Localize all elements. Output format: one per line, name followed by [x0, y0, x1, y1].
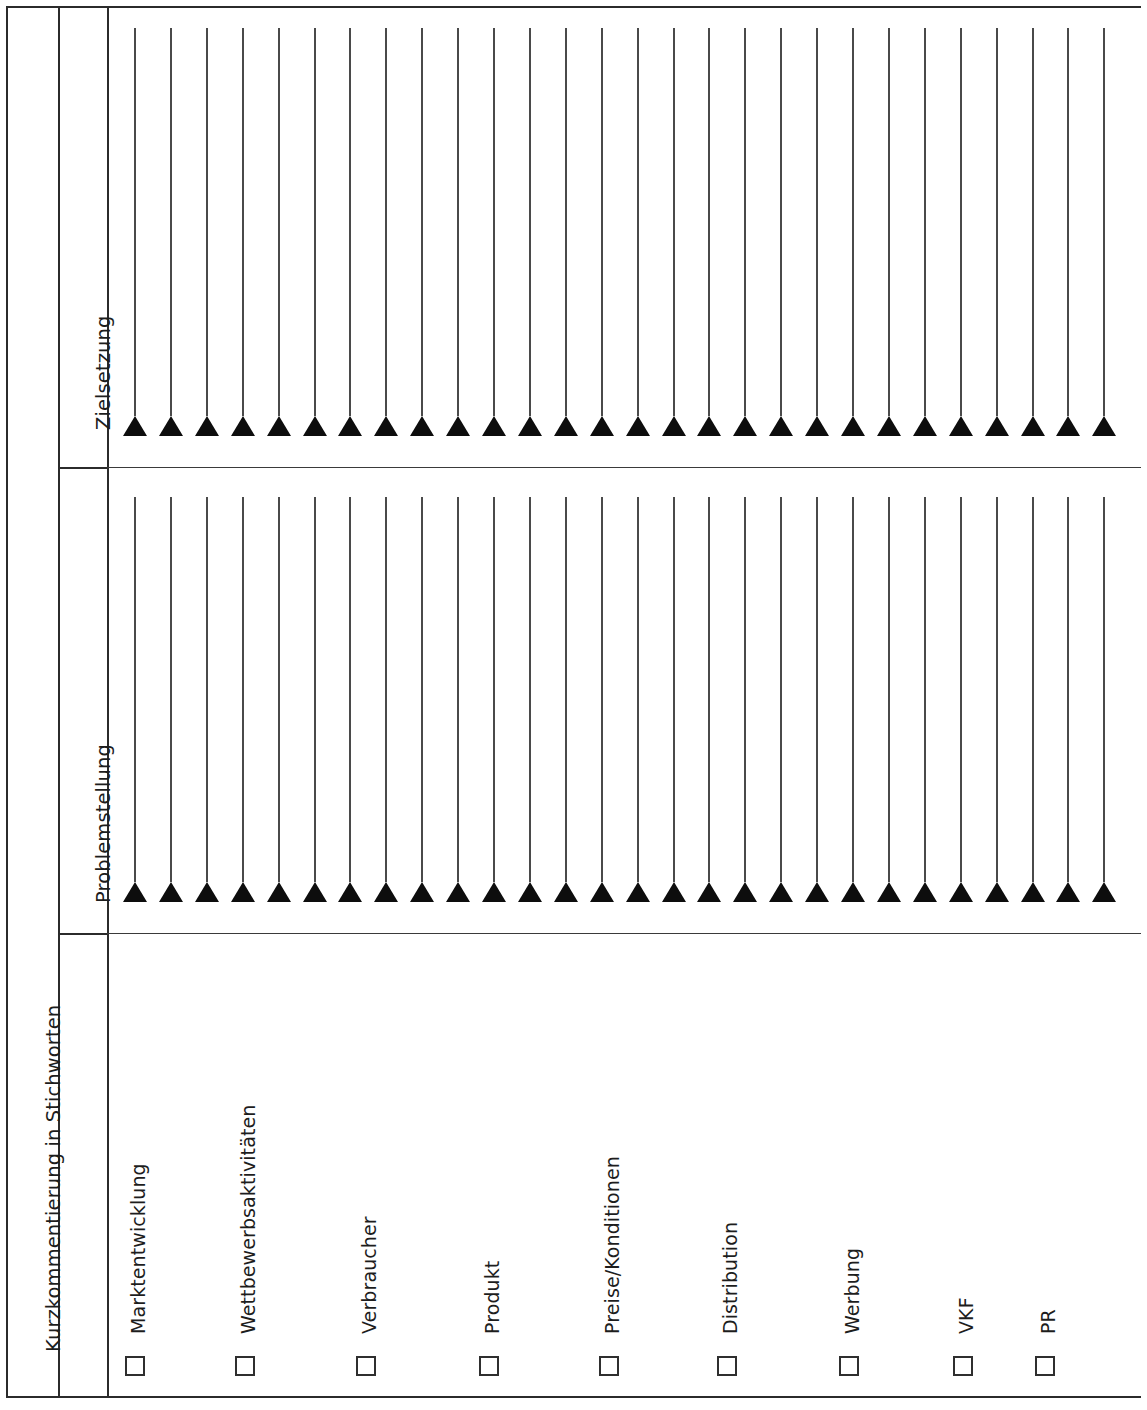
checkbox-preise-konditionen[interactable]	[599, 1356, 619, 1376]
checkbox-wettbewerbsaktivitaeten[interactable]	[235, 1356, 255, 1376]
writing-row[interactable]	[518, 28, 542, 436]
form-sheet: Kurzkommentierung in Stichworten Zielset…	[0, 0, 1147, 1410]
writing-row[interactable]	[733, 497, 757, 902]
checkbox-werbung[interactable]	[839, 1356, 859, 1376]
writing-row[interactable]	[1021, 497, 1045, 902]
writing-row[interactable]	[733, 28, 757, 436]
writing-row[interactable]	[626, 28, 650, 436]
writing-line	[349, 497, 351, 882]
writing-row[interactable]	[841, 28, 865, 436]
writing-row[interactable]	[1056, 497, 1080, 902]
writing-row[interactable]	[123, 28, 147, 436]
triangle-marker-icon	[1021, 416, 1045, 436]
category-label-produkt: Produkt	[481, 1261, 503, 1334]
triangle-marker-icon	[769, 416, 793, 436]
writing-row[interactable]	[159, 28, 183, 436]
writing-row[interactable]	[769, 28, 793, 436]
writing-row[interactable]	[195, 497, 219, 902]
writing-row[interactable]	[338, 28, 362, 436]
writing-row[interactable]	[1092, 28, 1116, 436]
triangle-marker-icon	[1056, 882, 1080, 902]
writing-row[interactable]	[805, 497, 829, 902]
writing-line	[565, 28, 567, 416]
writing-row[interactable]	[231, 497, 255, 902]
writing-line	[852, 497, 854, 882]
writing-row[interactable]	[626, 497, 650, 902]
triangle-marker-icon	[482, 882, 506, 902]
column-header-problemstellung: Problemstellung	[92, 744, 115, 903]
writing-line	[744, 28, 746, 416]
writing-row[interactable]	[985, 28, 1009, 436]
triangle-marker-icon	[123, 416, 147, 436]
writing-row[interactable]	[554, 28, 578, 436]
writing-row[interactable]	[374, 28, 398, 436]
triangle-marker-icon	[338, 416, 362, 436]
writing-row[interactable]	[662, 497, 686, 902]
writing-row[interactable]	[482, 497, 506, 902]
writing-row[interactable]	[159, 497, 183, 902]
writing-row[interactable]	[877, 497, 901, 902]
checkbox-vkf[interactable]	[953, 1356, 973, 1376]
writing-row[interactable]	[590, 28, 614, 436]
writing-row[interactable]	[1021, 28, 1045, 436]
writing-row[interactable]	[841, 497, 865, 902]
writing-line	[673, 28, 675, 416]
writing-row[interactable]	[554, 497, 578, 902]
writing-line	[278, 497, 280, 882]
writing-line	[314, 28, 316, 416]
writing-row[interactable]	[949, 28, 973, 436]
writing-row[interactable]	[410, 497, 434, 902]
writing-row[interactable]	[303, 497, 327, 902]
checkbox-marktentwicklung[interactable]	[125, 1356, 145, 1376]
writing-row[interactable]	[1056, 28, 1080, 436]
section-divider-problemstellung-categories	[107, 933, 1141, 934]
writing-row[interactable]	[949, 497, 973, 902]
triangle-marker-icon	[841, 416, 865, 436]
writing-row[interactable]	[195, 28, 219, 436]
writing-line	[314, 497, 316, 882]
header-cell-divider-top	[58, 467, 108, 469]
writing-row[interactable]	[769, 497, 793, 902]
writing-row[interactable]	[662, 28, 686, 436]
writing-row[interactable]	[697, 497, 721, 902]
checkbox-produkt[interactable]	[479, 1356, 499, 1376]
writing-line	[457, 28, 459, 416]
checkbox-verbraucher[interactable]	[356, 1356, 376, 1376]
writing-row[interactable]	[482, 28, 506, 436]
writing-row[interactable]	[410, 28, 434, 436]
checkbox-pr[interactable]	[1035, 1356, 1055, 1376]
writing-row[interactable]	[913, 497, 937, 902]
triangle-marker-icon	[446, 416, 470, 436]
writing-line	[708, 497, 710, 882]
writing-row[interactable]	[338, 497, 362, 902]
writing-row[interactable]	[877, 28, 901, 436]
writing-row[interactable]	[1092, 497, 1116, 902]
writing-row[interactable]	[446, 497, 470, 902]
writing-row[interactable]	[518, 497, 542, 902]
triangle-marker-icon	[554, 416, 578, 436]
writing-row[interactable]	[231, 28, 255, 436]
writing-row[interactable]	[985, 497, 1009, 902]
triangle-marker-icon	[267, 882, 291, 902]
writing-row[interactable]	[123, 497, 147, 902]
writing-row[interactable]	[590, 497, 614, 902]
writing-row[interactable]	[303, 28, 327, 436]
category-label-werbung: Werbung	[841, 1248, 863, 1334]
writing-row[interactable]	[267, 497, 291, 902]
writing-line	[637, 497, 639, 882]
category-label-verbraucher: Verbraucher	[358, 1216, 380, 1334]
writing-row[interactable]	[446, 28, 470, 436]
triangle-marker-icon	[1092, 416, 1116, 436]
triangle-marker-icon	[303, 416, 327, 436]
writing-line	[960, 28, 962, 416]
triangle-marker-icon	[626, 416, 650, 436]
checkbox-distribution[interactable]	[717, 1356, 737, 1376]
writing-row[interactable]	[697, 28, 721, 436]
writing-row[interactable]	[374, 497, 398, 902]
triangle-marker-icon	[841, 882, 865, 902]
writing-row[interactable]	[805, 28, 829, 436]
writing-row[interactable]	[267, 28, 291, 436]
writing-line	[637, 28, 639, 416]
writing-row[interactable]	[913, 28, 937, 436]
writing-line	[529, 28, 531, 416]
